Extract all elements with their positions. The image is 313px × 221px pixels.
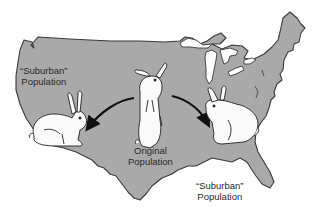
label-line: “Suburban” bbox=[196, 180, 244, 191]
us-map-outline bbox=[16, 12, 305, 200]
label-original-population: Original Population bbox=[128, 145, 173, 167]
label-line: “Suburban” bbox=[20, 65, 68, 76]
label-line: Original bbox=[128, 145, 173, 156]
label-line: Population bbox=[128, 156, 173, 167]
label-suburban-population-west: “Suburban” Population bbox=[20, 65, 68, 87]
label-line: Population bbox=[196, 191, 244, 202]
us-map-illustration bbox=[0, 0, 313, 221]
label-suburban-population-east: “Suburban” Population bbox=[196, 180, 244, 202]
diagram-canvas: “Suburban” Population Original Populatio… bbox=[0, 0, 313, 221]
label-line: Population bbox=[20, 76, 68, 87]
